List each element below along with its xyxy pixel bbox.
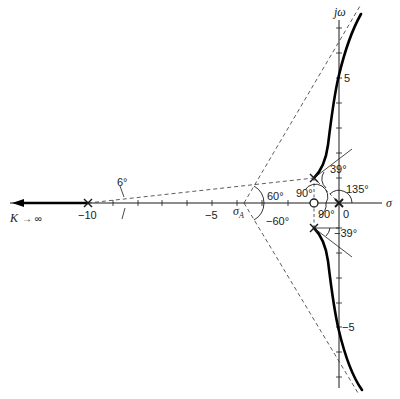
label-minus5-x: −5 [205, 209, 218, 221]
arc-60 [254, 186, 264, 203]
arc-minus60 [254, 203, 264, 220]
label-origin-0: 0 [343, 208, 349, 220]
angle-6-pointer-bottom [122, 208, 125, 219]
label-angle-minus60: −60° [266, 215, 289, 227]
label-angle-6: 6° [117, 176, 128, 188]
label-angle-60: 60° [267, 190, 284, 202]
label-angle-minus39: −39° [334, 227, 357, 239]
label-jw-axis: jω [332, 5, 346, 19]
arc-39 [322, 172, 326, 188]
label-angle-39: 39° [330, 163, 347, 175]
label-k-infinity: → ∞ [22, 213, 42, 224]
label-k: K [9, 211, 19, 225]
arc-minus39 [326, 228, 330, 236]
label-angle-135: 135° [346, 183, 369, 195]
zero-minus1 [310, 199, 318, 207]
label-angle-90-lower: 90° [318, 208, 335, 220]
label-minus10: −10 [78, 209, 97, 221]
label-plus5-y: 5 [344, 72, 350, 84]
arrow-left-icon [12, 199, 24, 207]
root-locus-diagram: 6° −10 −5 0 5 −5 σ jω σA 60° −60° 90° 90… [0, 0, 400, 399]
locus-branch-lower [314, 228, 362, 390]
label-angle-90-upper: 90° [296, 187, 313, 199]
label-sigma-axis: σ [386, 196, 393, 210]
label-sigma-a: σA [233, 204, 244, 220]
label-minus5-y: −5 [342, 321, 355, 333]
